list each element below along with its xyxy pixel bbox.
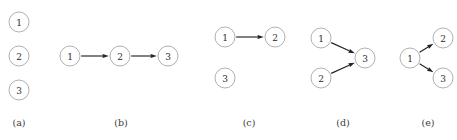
- node-1: 1: [311, 28, 331, 48]
- node-3: 3: [355, 48, 375, 68]
- node-2: 2: [265, 27, 285, 47]
- node-3: 3: [433, 68, 453, 88]
- arrowhead-icon: [103, 54, 109, 58]
- node-3: 3: [9, 80, 29, 100]
- node-1: 1: [400, 48, 420, 68]
- node-label: 3: [222, 74, 228, 84]
- node-label: 1: [67, 52, 73, 62]
- panel-d: 123: [311, 28, 375, 88]
- node-label: 3: [165, 52, 171, 62]
- node-1: 1: [60, 46, 80, 66]
- arrowhead-icon: [348, 49, 355, 53]
- panel-caption-c: (c): [229, 117, 269, 128]
- edge-1-to-3: [420, 64, 429, 69]
- node-label: 3: [16, 86, 22, 96]
- edge-group: [331, 43, 355, 74]
- node-label: 3: [440, 74, 446, 84]
- node-label: 2: [16, 52, 22, 62]
- node-label: 1: [318, 34, 324, 44]
- panel-a: 123: [9, 12, 29, 100]
- arrowhead-icon: [427, 44, 433, 49]
- panel-e: 123: [400, 28, 453, 88]
- edge-1-to-2: [420, 47, 429, 52]
- node-label: 2: [440, 34, 446, 44]
- edge-group: [236, 35, 264, 39]
- panel-caption-a: (a): [0, 117, 39, 128]
- node-3: 3: [215, 68, 235, 88]
- arrowhead-icon: [258, 35, 264, 39]
- panel-b: 123: [60, 46, 178, 66]
- panel-caption-b: (b): [101, 117, 141, 128]
- panel-caption-d: (d): [323, 117, 363, 128]
- node-label: 2: [117, 52, 123, 62]
- arrowhead-icon: [348, 63, 355, 67]
- node-1: 1: [215, 27, 235, 47]
- graph-figure: 123123123123123 (a)(b)(c)(d)(e): [0, 0, 457, 140]
- node-label: 1: [16, 18, 22, 28]
- arrowhead-icon: [427, 67, 433, 72]
- node-label: 1: [222, 33, 228, 43]
- node-label: 3: [362, 54, 368, 64]
- node-2: 2: [311, 68, 331, 88]
- node-label: 2: [272, 33, 278, 43]
- node-2: 2: [110, 46, 130, 66]
- panel-caption-e: (e): [408, 117, 448, 128]
- edge-2-to-3: [331, 65, 349, 73]
- node-label: 1: [407, 54, 413, 64]
- node-3: 3: [158, 46, 178, 66]
- panel-c: 123: [215, 27, 285, 88]
- arrowhead-icon: [151, 54, 157, 58]
- edge-group: [420, 44, 434, 72]
- node-1: 1: [9, 12, 29, 32]
- node-2: 2: [433, 28, 453, 48]
- node-label: 2: [318, 74, 324, 84]
- node-2: 2: [9, 46, 29, 66]
- edge-1-to-3: [331, 43, 349, 51]
